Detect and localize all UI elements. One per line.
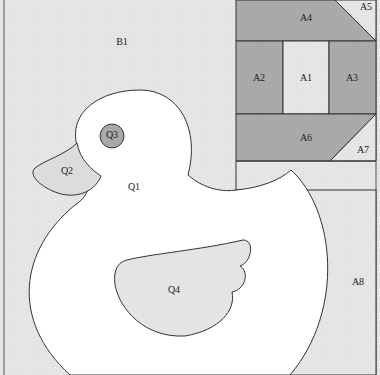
label-a2: A2 bbox=[253, 72, 265, 83]
label-q3: Q3 bbox=[106, 129, 118, 140]
label-a4: A4 bbox=[300, 12, 312, 23]
label-a1: A1 bbox=[300, 72, 312, 83]
quilt-pattern-diagram: B1 A4 A5 A2 A1 A3 A6 A7 A8 Q1 Q2 Q3 Q4 bbox=[0, 0, 380, 375]
label-a7: A7 bbox=[357, 144, 369, 155]
label-a3: A3 bbox=[346, 72, 358, 83]
label-a6: A6 bbox=[300, 132, 312, 143]
label-q1: Q1 bbox=[128, 181, 140, 192]
label-q2: Q2 bbox=[61, 165, 73, 176]
label-a8: A8 bbox=[352, 276, 364, 287]
label-q4: Q4 bbox=[168, 284, 180, 295]
label-b1: B1 bbox=[116, 36, 128, 47]
label-a5: A5 bbox=[360, 1, 372, 12]
